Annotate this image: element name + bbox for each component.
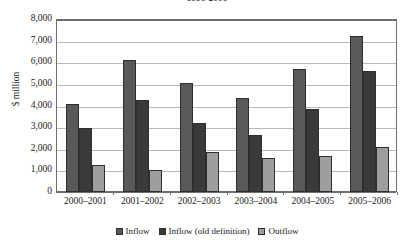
chart-title: 1996-2006 bbox=[0, 0, 414, 3]
x-axis-tick-label: 2002–2003 bbox=[169, 196, 229, 206]
legend-swatch-icon bbox=[116, 228, 123, 235]
bar bbox=[149, 170, 162, 192]
x-axis-labels: 2000–20012001–20022002–20032003–20042004… bbox=[56, 196, 397, 210]
bar-group bbox=[123, 19, 162, 192]
y-axis-ticks: 01,0002,0003,0004,0005,0006,0007,0008,00… bbox=[4, 19, 52, 192]
x-axis-tick-label: 2001–2002 bbox=[112, 196, 172, 206]
bar bbox=[293, 69, 306, 192]
y-axis-tick-label: 6,000 bbox=[8, 57, 52, 67]
legend-label: Outflow bbox=[268, 226, 298, 236]
x-axis-tick-label: 2003–2004 bbox=[226, 196, 286, 206]
x-axis-tick-label: 2005–2006 bbox=[340, 196, 400, 206]
y-axis-tick-label: 8,000 bbox=[8, 14, 52, 24]
y-axis-tick-label: 0 bbox=[8, 187, 52, 197]
bar bbox=[180, 83, 193, 192]
bar bbox=[206, 152, 219, 192]
bar bbox=[136, 100, 149, 192]
bar-group bbox=[236, 19, 275, 192]
x-axis-tick-mark bbox=[397, 192, 398, 195]
x-axis-tick-mark bbox=[340, 192, 341, 195]
bar bbox=[363, 71, 376, 192]
x-axis-tick-mark bbox=[227, 192, 228, 195]
bar-group bbox=[66, 19, 105, 192]
chart-legend: InflowInflow (old definition)Outflow bbox=[0, 226, 414, 236]
legend-swatch-icon bbox=[159, 228, 166, 235]
y-axis-tick-label: 5,000 bbox=[8, 79, 52, 89]
x-axis-tick-mark bbox=[283, 192, 284, 195]
bar-group bbox=[350, 19, 389, 192]
y-axis-tick-label: 7,000 bbox=[8, 36, 52, 46]
y-axis-tick-label: 1,000 bbox=[8, 165, 52, 175]
bar bbox=[92, 165, 105, 192]
bar bbox=[193, 123, 206, 192]
x-axis-tick-label: 2004–2005 bbox=[283, 196, 343, 206]
bar bbox=[319, 156, 332, 192]
bar bbox=[249, 135, 262, 192]
legend-label: Inflow (old definition) bbox=[169, 226, 250, 236]
bar bbox=[79, 128, 92, 192]
bar bbox=[66, 104, 79, 192]
bar-group bbox=[180, 19, 219, 192]
bar bbox=[262, 158, 275, 192]
bar-groups bbox=[56, 19, 397, 192]
y-axis-tick-label: 2,000 bbox=[8, 144, 52, 154]
bar bbox=[306, 109, 319, 192]
legend-label: Inflow bbox=[126, 226, 150, 236]
y-axis-tick-label: 4,000 bbox=[8, 101, 52, 111]
x-axis-tick-label: 2000–2001 bbox=[55, 196, 115, 206]
y-axis-tick-label: 3,000 bbox=[8, 122, 52, 132]
legend-swatch-icon bbox=[258, 228, 265, 235]
bar-chart: 1996-2006 $ million 01,0002,0003,0004,00… bbox=[0, 0, 414, 248]
bar bbox=[236, 98, 249, 192]
bar bbox=[123, 60, 136, 192]
bar bbox=[350, 36, 363, 192]
legend-item[interactable]: Inflow (old definition) bbox=[159, 226, 250, 236]
bar-group bbox=[293, 19, 332, 192]
x-axis-tick-mark bbox=[113, 192, 114, 195]
x-axis-tick-mark bbox=[170, 192, 171, 195]
bar bbox=[376, 147, 389, 192]
legend-item[interactable]: Outflow bbox=[258, 226, 298, 236]
legend-item[interactable]: Inflow bbox=[116, 226, 150, 236]
